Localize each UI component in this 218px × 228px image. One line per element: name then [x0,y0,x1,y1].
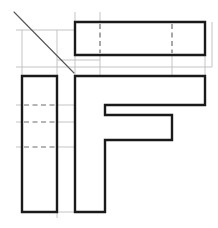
front-view-f-profile-outline [75,76,205,212]
top-view [75,22,205,55]
technical-drawing-sheet [0,0,218,228]
side-view-outline [22,76,57,212]
side-view [22,76,57,212]
top-view-outline [75,22,205,55]
orthographic-projection-canvas [0,0,218,228]
front-view [75,76,205,212]
forty-five-degree-projection-line [14,12,74,73]
